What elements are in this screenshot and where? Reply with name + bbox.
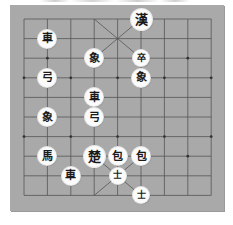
position-marker bbox=[23, 135, 26, 138]
position-marker bbox=[116, 135, 119, 138]
piece-chariot-1[interactable]: 車 bbox=[38, 30, 56, 48]
position-marker bbox=[163, 135, 166, 138]
position-marker bbox=[46, 57, 49, 60]
position-marker bbox=[186, 57, 189, 60]
piece-cho-general[interactable]: 楚 bbox=[84, 146, 105, 167]
position-marker bbox=[69, 76, 72, 79]
position-marker bbox=[69, 135, 72, 138]
position-marker bbox=[210, 135, 213, 138]
position-marker bbox=[163, 76, 166, 79]
position-marker bbox=[23, 76, 26, 79]
cropped-title-remnant bbox=[40, 0, 190, 2]
piece-chariot-3[interactable]: 車 bbox=[62, 167, 80, 185]
piece-cannon-3[interactable]: 包 bbox=[109, 147, 127, 165]
position-marker bbox=[116, 76, 119, 79]
position-marker bbox=[186, 155, 189, 158]
piece-advisor-1[interactable]: 士 bbox=[110, 168, 126, 184]
piece-elephant-2[interactable]: 象 bbox=[132, 69, 150, 87]
position-marker bbox=[210, 76, 213, 79]
game-board[interactable]: 漢車象卒弓象車象弓馬楚包包車士士 bbox=[10, 5, 224, 211]
piece-han-general[interactable]: 漢 bbox=[131, 9, 152, 30]
